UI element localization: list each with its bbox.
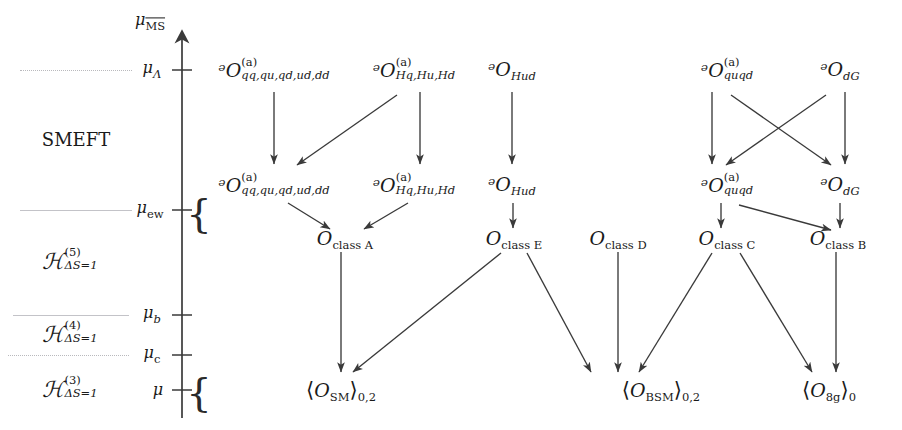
operator-subscript: qq,qu,qd,ud,dd xyxy=(241,69,329,81)
axis-top-label-base: μ xyxy=(135,10,145,29)
figure-canvas: μMS μΛ μew μb μc μ { { SMEFT ℋΔS=1(5)ΔS=… xyxy=(0,0,902,430)
h4-subscript: ΔS=1 xyxy=(64,333,97,345)
operator-subscript: class B xyxy=(825,238,866,252)
operator-symbol: ᵊO xyxy=(373,174,396,196)
operator-subscript: Hq,Hu,Hd xyxy=(396,184,456,196)
arrow-m2-classA xyxy=(364,203,408,229)
brace-ew-region: { xyxy=(186,190,211,236)
tick-sub: c xyxy=(154,352,160,366)
arrow-classC-obsm xyxy=(639,253,712,372)
operator-superscript: (a) xyxy=(724,56,740,68)
tick-sub: b xyxy=(153,312,160,326)
operator-indices: quqd(a)quqd xyxy=(724,64,754,81)
operator-superscript: (a) xyxy=(396,171,412,183)
operator-superscript: (a) xyxy=(241,56,257,68)
operator-superscript: (a) xyxy=(241,171,257,183)
matrix-element-indices: 0 xyxy=(849,390,856,404)
operator-node-quqd-ew: ᵊOquqd(a)quqd xyxy=(701,176,753,196)
operator-node-qq-ew: ᵊOqq,qu,qd,ud,dd(a)qq,qu,qd,ud,dd xyxy=(218,176,329,196)
operator-node-dG-ew: ᵊOdG xyxy=(820,175,860,197)
operator-node-Hq-high: ᵊOHq,Hu,Hd(a)Hq,Hu,Hd xyxy=(373,61,455,81)
axis-tick-label-mu-c: μc xyxy=(144,345,161,364)
tick-base: μ xyxy=(143,58,153,77)
operator-node-class-b: Oclass B xyxy=(810,229,866,251)
hamiltonian-symbol: ℋ xyxy=(42,322,64,347)
arrow-n5-m4 xyxy=(726,95,826,165)
operator-indices: Hq,Hu,Hd(a)Hq,Hu,Hd xyxy=(396,179,456,196)
operator-symbol: ᵊO xyxy=(218,174,241,196)
operator-symbol: ᵊO xyxy=(701,59,724,81)
operator-subscript: qq,qu,qd,ud,dd xyxy=(241,184,329,196)
bra-bracket: ⟨ xyxy=(802,378,810,402)
h5-superscript: (5) xyxy=(64,246,80,258)
hamiltonian-symbol: ℋ xyxy=(42,249,64,274)
arrow-classE-obsm xyxy=(527,253,591,372)
operator-indices: quqd(a)quqd xyxy=(724,179,754,196)
operator-subscript: BSM xyxy=(646,390,674,404)
operator-subscript: Hud xyxy=(511,69,536,83)
operator-subscript: quqd xyxy=(724,69,754,81)
operator-superscript: (a) xyxy=(396,56,412,68)
operator-subscript: class A xyxy=(332,238,373,252)
operator-symbol: O xyxy=(589,227,605,249)
operator-symbol: O xyxy=(314,379,330,401)
operator-symbol: ᵊO xyxy=(820,173,843,195)
arrow-n4-m5 xyxy=(731,95,831,165)
operator-node-class-c: Oclass C xyxy=(699,229,756,251)
h5-indices: ΔS=1(5)ΔS=1 xyxy=(64,254,97,273)
matrix-element-bsm: ⟨OBSM⟩0,2 xyxy=(622,379,700,403)
region-label-h3: ℋΔS=1(3)ΔS=1 xyxy=(42,378,97,401)
operator-node-dG-high: ᵊOdG xyxy=(820,60,860,82)
operator-symbol: O xyxy=(486,227,502,249)
operator-node-class-e: Oclass E xyxy=(486,229,542,251)
h3-superscript: (3) xyxy=(64,374,80,386)
operator-subscript: Hud xyxy=(511,184,536,198)
operator-subscript: 8g xyxy=(826,390,841,404)
h4-superscript: (4) xyxy=(64,319,80,331)
operator-node-qq-high: ᵊOqq,qu,qd,ud,dd(a)qq,qu,qd,ud,dd xyxy=(218,61,329,81)
h3-indices: ΔS=1(3)ΔS=1 xyxy=(64,382,97,401)
operator-symbol: ᵊO xyxy=(488,173,511,195)
operator-indices: qq,qu,qd,ud,dd(a)qq,qu,qd,ud,dd xyxy=(241,179,329,196)
ket-bracket: ⟩ xyxy=(674,378,682,402)
tick-base: μ xyxy=(136,198,146,217)
hamiltonian-symbol: ℋ xyxy=(42,377,64,402)
arrow-n2-m1 xyxy=(297,95,397,165)
h5-subscript: ΔS=1 xyxy=(64,260,97,272)
operator-subscript: dG xyxy=(843,69,860,83)
region-label-h4: ℋΔS=1(4)ΔS=1 xyxy=(42,323,97,346)
operator-node-class-a: Oclass A xyxy=(317,229,373,251)
operator-subscript: SM xyxy=(330,390,350,404)
operator-subscript: quqd xyxy=(724,184,754,196)
operator-indices: Hq,Hu,Hd(a)Hq,Hu,Hd xyxy=(396,64,456,81)
bra-bracket: ⟨ xyxy=(622,378,630,402)
operator-symbol: ᵊO xyxy=(373,59,396,81)
operator-symbol: O xyxy=(810,227,826,249)
operator-symbol: O xyxy=(699,227,715,249)
axis-tick-label-mu-b: μb xyxy=(143,305,161,324)
operator-symbol: ᵊO xyxy=(820,58,843,80)
tick-sub: ew xyxy=(147,207,164,221)
bra-bracket: ⟨ xyxy=(306,378,314,402)
operator-node-quqd-high: ᵊOquqd(a)quqd xyxy=(701,61,753,81)
operator-symbol: O xyxy=(810,379,826,401)
operator-symbol: ᵊO xyxy=(701,174,724,196)
region-label-smeft: SMEFT xyxy=(42,131,110,150)
operator-subscript: class C xyxy=(714,238,755,252)
ket-bracket: ⟩ xyxy=(349,378,357,402)
operator-node-Hq-ew: ᵊOHq,Hu,Hd(a)Hq,Hu,Hd xyxy=(373,176,455,196)
arrow-m1-classA xyxy=(288,203,330,229)
axis-top-label: μMS xyxy=(135,12,165,31)
operator-superscript: (a) xyxy=(724,171,740,183)
axis-tick-label-mu: μ xyxy=(153,382,163,399)
axis-top-label-sub: MS xyxy=(145,19,165,33)
region-label-h5: ℋΔS=1(5)ΔS=1 xyxy=(42,250,97,273)
operator-subscript: class D xyxy=(605,238,647,252)
matrix-element-sm: ⟨OSM⟩0,2 xyxy=(306,379,376,403)
operator-symbol: ᵊO xyxy=(488,58,511,80)
ket-bracket: ⟩ xyxy=(840,378,848,402)
matrix-element-indices: 0,2 xyxy=(682,390,700,404)
operator-node-Hud-ew: ᵊOHud xyxy=(488,175,536,197)
matrix-element-indices: 0,2 xyxy=(358,390,376,404)
operator-subscript: dG xyxy=(843,184,860,198)
